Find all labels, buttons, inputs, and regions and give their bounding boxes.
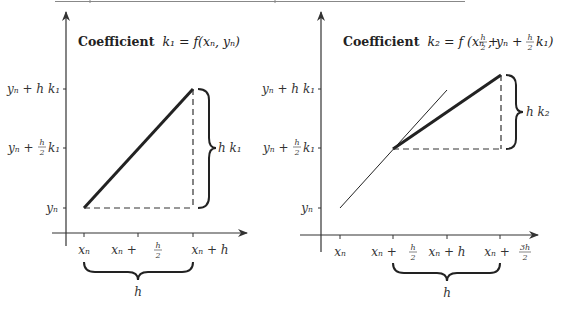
svg-text:yₙ +: yₙ + [262, 141, 289, 155]
svg-text:2: 2 [38, 148, 44, 157]
x-label-1: xₙ + h 2 [371, 243, 417, 262]
y-label-mid: yₙ + h 2 k₁ [262, 138, 315, 157]
svg-text:h: h [410, 243, 415, 252]
svg-text:k₁: k₁ [303, 141, 315, 155]
svg-text:xₙ +: xₙ + [111, 243, 137, 257]
svg-text:2: 2 [521, 253, 527, 262]
svg-text:h: h [480, 33, 485, 42]
x-label-2: xₙ + h [428, 245, 465, 259]
svg-text:xₙ +: xₙ + [371, 245, 397, 259]
x-label-2: xₙ + h [191, 243, 228, 257]
svg-text:3h: 3h [520, 243, 530, 252]
svg-text:h: h [294, 138, 299, 147]
x-label-0: xₙ [78, 243, 90, 257]
y-label-mid: yₙ + h 2 k₁ [7, 138, 60, 157]
left-title: Coefficient k₁ = f(xₙ, yₙ) [78, 34, 240, 49]
y-label-top: yₙ + h k₁ [6, 82, 60, 96]
svg-text:2: 2 [526, 43, 532, 52]
k2-slope-line [393, 75, 501, 149]
left-panel: Coefficient k₁ = f(xₙ, yₙ) yₙ + h k₁ yₙ … [6, 12, 247, 299]
y-label-bottom: yₙ [45, 201, 58, 215]
run-label: h [443, 286, 451, 300]
svg-text:yₙ +: yₙ + [7, 141, 34, 155]
svg-text:xₙ +: xₙ + [484, 245, 510, 259]
svg-text:h: h [155, 241, 160, 250]
run-label: h [134, 285, 142, 299]
rise-label: h k₁ [218, 141, 242, 155]
x-label-0: xₙ [334, 245, 346, 259]
run-brace [393, 263, 500, 281]
rise-brace [198, 89, 216, 208]
x-label-3: xₙ + 3h 2 [484, 243, 531, 262]
x-label-1: xₙ + h 2 [111, 241, 162, 260]
svg-text:2: 2 [154, 251, 160, 260]
svg-text:2: 2 [479, 43, 485, 52]
k1-slope-line [84, 89, 193, 208]
svg-text:k₁: k₁ [48, 141, 60, 155]
svg-text:2: 2 [409, 253, 415, 262]
runge-kutta-diagram: Coefficient k₁ = f(xₙ, yₙ) yₙ + h k₁ yₙ … [0, 0, 571, 311]
svg-text:Coefficient k₂ = f (xₙ: Coefficient k₂ = f (xₙ + [343, 34, 498, 49]
right-panel: Coefficient k₂ = f (xₙ + h 2 , yₙ + h 2 … [261, 12, 554, 300]
svg-text:, yₙ +: , yₙ + [488, 34, 523, 49]
svg-text:k₁): k₁) [536, 34, 554, 49]
svg-text:h: h [39, 138, 44, 147]
right-title: Coefficient k₂ = f (xₙ + h 2 , yₙ + h 2 … [343, 33, 554, 52]
rise-label: h k₂ [526, 105, 550, 119]
svg-text:h: h [527, 33, 532, 42]
rise-brace [506, 75, 523, 149]
run-brace [84, 262, 193, 280]
y-label-top: yₙ + h k₁ [261, 82, 315, 96]
y-label-bottom: yₙ [300, 201, 313, 215]
svg-text:2: 2 [293, 148, 299, 157]
